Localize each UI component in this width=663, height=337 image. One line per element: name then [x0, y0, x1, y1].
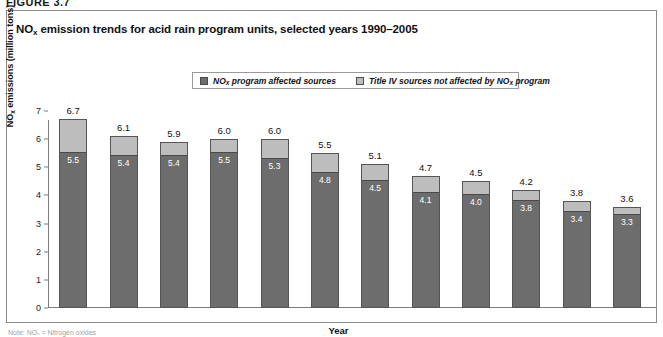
stacked-bar[interactable] [59, 119, 87, 308]
figure-number: FIGURE 3.7 [6, 0, 70, 7]
bar-segment-label: 5.3 [261, 161, 289, 171]
bar-segment-label: 5.4 [160, 158, 188, 168]
bar-segment-nox-program[interactable] [60, 152, 86, 307]
figure-title-main: NO [16, 23, 33, 35]
legend-label-title-iv: Title IV sources not affected by NOx pro… [369, 76, 550, 86]
bar-total-label: 5.5 [305, 139, 345, 150]
y-axis-title: NOx emissions (million tons) [5, 0, 15, 141]
bar-total-label: 4.5 [456, 167, 496, 178]
y-axis-tick-mark [44, 308, 48, 309]
bar-segment-label: 5.5 [210, 155, 238, 165]
y-axis-tick-mark [44, 195, 48, 196]
bar-segment-nox-program[interactable] [111, 155, 137, 307]
y-axis-tick-mark [44, 279, 48, 280]
bar-total-label: 3.6 [607, 193, 647, 204]
bar-segment-label: 3.3 [613, 217, 641, 227]
bar-segment-nox-program[interactable] [614, 214, 640, 307]
y-axis-tick-mark [44, 167, 48, 168]
bar-segment-label: 4.5 [361, 183, 389, 193]
bar-segment-label: 5.4 [110, 158, 138, 168]
bar-segment-label: 3.4 [563, 214, 591, 224]
bar-segment-nox-program[interactable] [413, 192, 439, 307]
bar-segment-nox-program[interactable] [312, 172, 338, 307]
bar-total-label: 6.0 [255, 125, 295, 136]
bar-segment-label: 4.0 [462, 197, 490, 207]
x-axis-title: Year [7, 325, 663, 336]
bar-segment-label: 4.8 [311, 175, 339, 185]
bar-total-label: 4.7 [406, 162, 446, 173]
y-axis-tick-mark [44, 139, 48, 140]
bar-segment-label: 3.8 [512, 203, 540, 213]
y-axis-tick-mark [44, 223, 48, 224]
figure-title-rest: emission trends for acid rain program un… [37, 23, 417, 35]
legend-swatch-light-icon [356, 77, 364, 85]
y-axis-tick-mark [44, 251, 48, 252]
bar-segment-nox-program[interactable] [161, 155, 187, 307]
y-axis-tick-mark [44, 111, 48, 112]
bar-segment-nox-program[interactable] [211, 152, 237, 307]
bar-total-label: 6.1 [104, 122, 144, 133]
bar-total-label: 5.1 [355, 150, 395, 161]
plot-area: 012345676.75.519906.15.419955.95.419966.… [48, 111, 652, 308]
chart-legend: NOx program affected sources Title IV so… [192, 72, 519, 89]
bar-segment-nox-program[interactable] [463, 194, 489, 307]
bar-segment-nox-program[interactable] [564, 211, 590, 307]
figure-title: NOx emission trends for acid rain progra… [16, 23, 418, 35]
bar-total-label: 6.0 [204, 125, 244, 136]
bar-segment-nox-program[interactable] [513, 200, 539, 307]
bar-total-label: 6.7 [53, 105, 93, 116]
bar-segment-label: 5.5 [59, 155, 87, 165]
bar-segment-nox-program[interactable] [262, 158, 288, 307]
figure-note: Note: NOₓ = Nitrogen oxides [8, 329, 96, 337]
figure-title-subscript: x [33, 28, 37, 37]
legend-item-title-iv: Title IV sources not affected by NOx pro… [356, 76, 550, 86]
legend-swatch-dark-icon [200, 77, 208, 85]
bar-total-label: 3.8 [557, 187, 597, 198]
legend-label-nox-program: NOx program affected sources [213, 76, 336, 86]
legend-item-nox-program: NOx program affected sources [200, 76, 336, 86]
bar-total-label: 4.2 [506, 176, 546, 187]
bar-segment-label: 4.1 [412, 195, 440, 205]
bar-segment-nox-program[interactable] [362, 180, 388, 307]
bar-total-label: 5.9 [154, 128, 194, 139]
figure-frame: NOx emission trends for acid rain progra… [6, 10, 657, 323]
